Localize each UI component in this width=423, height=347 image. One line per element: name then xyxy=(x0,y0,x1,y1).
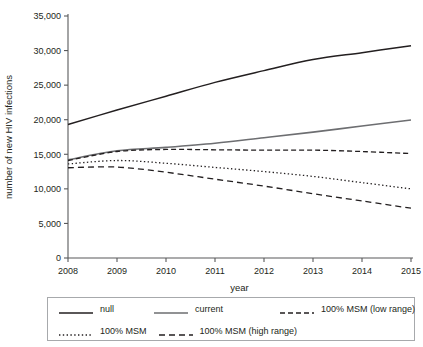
legend-item-msm[interactable]: 100% MSM xyxy=(59,326,147,336)
legend-label-msm: 100% MSM xyxy=(100,326,147,336)
x-tick-label: 2011 xyxy=(205,266,224,276)
y-tick-label: 0 xyxy=(56,253,61,263)
legend-label-null: null xyxy=(100,304,114,314)
x-axis-ticks: 20082009201020112012201320142015 xyxy=(58,258,421,276)
x-axis-title: year xyxy=(230,282,248,293)
legend-label-msm-low: 100% MSM (low range) xyxy=(321,304,415,314)
x-tick-label: 2013 xyxy=(303,266,323,276)
legend-label-current: current xyxy=(195,304,223,314)
x-tick-label: 2015 xyxy=(401,266,421,276)
y-tick-label: 30,000 xyxy=(33,46,61,56)
y-tick-label: 10,000 xyxy=(33,184,61,194)
y-tick-label: 25,000 xyxy=(33,80,61,90)
line-chart-canvas: 05,00010,00015,00020,00025,00030,00035,0… xyxy=(0,0,423,295)
legend-item-msm-high[interactable]: 100% MSM (high range) xyxy=(159,326,298,336)
x-tick-label: 2012 xyxy=(254,266,274,276)
y-tick-label: 15,000 xyxy=(33,150,61,160)
y-tick-label: 35,000 xyxy=(33,11,61,21)
x-tick-label: 2010 xyxy=(156,266,176,276)
chart-figure: 05,00010,00015,00020,00025,00030,00035,0… xyxy=(0,0,423,347)
series-line-100-msm-high-range xyxy=(68,167,411,208)
legend-swatch-null xyxy=(59,304,93,314)
legend-swatch-msm-low xyxy=(280,304,314,314)
legend-item-current[interactable]: current xyxy=(154,304,223,314)
chart-legend: null current 100% MSM (low range) 100% M… xyxy=(47,297,415,341)
legend-item-msm-low[interactable]: 100% MSM (low range) xyxy=(280,304,415,314)
x-axis-group: 20082009201020112012201320142015 xyxy=(58,258,421,276)
legend-swatch-msm-high xyxy=(159,326,193,336)
legend-row-2: 100% MSM 100% MSM (high range) xyxy=(48,320,414,342)
series-lines xyxy=(68,46,411,208)
x-tick-label: 2009 xyxy=(107,266,127,276)
y-tick-label: 20,000 xyxy=(33,115,61,125)
legend-row-1: null current 100% MSM (low range) xyxy=(48,298,414,320)
y-axis-group: 05,00010,00015,00020,00025,00030,00035,0… xyxy=(33,11,68,263)
series-line-100-msm-low-range xyxy=(68,149,411,160)
series-line-null xyxy=(68,46,411,125)
legend-swatch-msm xyxy=(59,326,93,336)
legend-swatch-current xyxy=(154,304,188,314)
legend-label-msm-high: 100% MSM (high range) xyxy=(200,326,298,336)
x-tick-label: 2008 xyxy=(58,266,78,276)
x-tick-label: 2014 xyxy=(352,266,372,276)
y-axis-title: number of new HIV infections xyxy=(3,75,14,199)
y-axis-ticks: 05,00010,00015,00020,00025,00030,00035,0… xyxy=(33,11,68,263)
series-line-current xyxy=(68,120,411,160)
series-line-100-msm xyxy=(68,161,411,189)
legend-item-null[interactable]: null xyxy=(59,304,114,314)
y-tick-label: 5,000 xyxy=(38,219,61,229)
